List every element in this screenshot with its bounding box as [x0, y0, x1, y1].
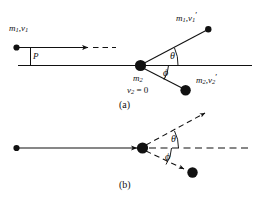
panel-b-phi-label: ϕ [165, 152, 170, 162]
panel-a-outgoing-lower-particle-dot [180, 85, 190, 95]
panel-b-collision-vertex-dot [137, 142, 148, 153]
panel-b-incoming-particle-dot [13, 145, 19, 151]
panel-a-theta-arc [175, 48, 179, 66]
panel-a-outgoing-upper-label: m1,v1′ [176, 11, 197, 23]
panel-a-outgoing-upper-particle-dot [205, 26, 211, 32]
panel-a-target-mass-label: m2 [133, 74, 143, 84]
panel-a-caption: (a) [119, 100, 130, 110]
panel-a-target-velocity-label: v2 = 0 [127, 86, 148, 96]
panel-a-incoming-label: m1,v1 [9, 24, 28, 34]
panel-a-impact-parameter-label: P [33, 52, 39, 61]
panel-a-collision-vertex-dot [135, 60, 146, 71]
panel-b-outgoing-lower-particle-dot [187, 167, 197, 177]
panel-b-caption: (b) [119, 180, 131, 190]
panel-b-geometry [13, 113, 252, 178]
panel-a-phi-label: ϕ [163, 68, 168, 78]
panel-a-theta-label: θ [170, 51, 175, 61]
panel-b-theta-label: θ [171, 134, 176, 144]
panel-a-outgoing-lower-label: m2,v2′ [196, 73, 217, 85]
panel-a-incoming-particle-dot [13, 44, 19, 50]
physics-collision-figure: m1,v1 P m2 v2 = 0 m1,v1′ m2,v2′ θ ϕ (a) … [0, 0, 259, 204]
